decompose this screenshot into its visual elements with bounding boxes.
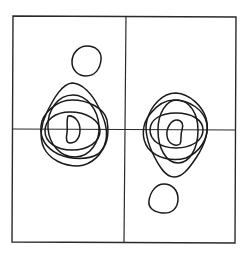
left-medium-oval-contour [48, 95, 99, 157]
top-left-circle-contour [72, 46, 101, 76]
bottom-right-circle-contour [149, 184, 178, 213]
contour-figure [0, 0, 246, 253]
right-cluster [143, 93, 207, 177]
left-flat-ellipse-contour [45, 112, 100, 150]
right-inner-bean-contour [167, 120, 183, 145]
right-medium-oval-contour [158, 100, 198, 163]
left-cluster [41, 83, 108, 166]
